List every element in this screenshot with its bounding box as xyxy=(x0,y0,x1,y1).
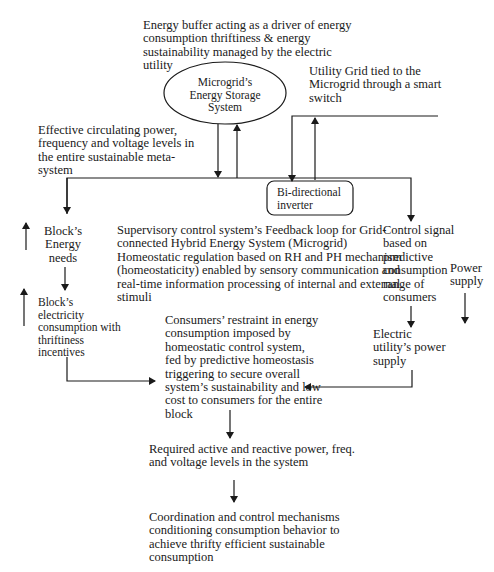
coordination-note: Coordination and control mechanisms cond… xyxy=(149,511,340,565)
homeostatic-microgrid-diagram: Energy buffer acting as a driver of ener… xyxy=(0,0,494,572)
electric-utility-supply: Electric utility’s power supply xyxy=(373,328,446,368)
power-supply-note: Power supply xyxy=(450,262,483,289)
storage-node-label: Microgrid’s Energy Storage System xyxy=(180,76,270,114)
utility-grid-line xyxy=(292,116,438,181)
control-signal-note: Control signal based on predictive consu… xyxy=(383,224,454,304)
block-consumption-note: Block’s electricity consumption with thr… xyxy=(38,296,121,359)
circulating-power-note: Effective circulating power, frequency a… xyxy=(38,124,194,178)
main-bus-line xyxy=(67,178,411,221)
inverter-label: Bi-directional inverter xyxy=(277,186,341,211)
required-levels-note: Required active and reactive power, freq… xyxy=(149,443,355,470)
utility-grid-note: Utility Grid tied to the Microgrid throu… xyxy=(309,65,441,105)
block-energy-needs: Block’s Energy needs xyxy=(38,225,88,265)
arrow-consumption-to-restraint xyxy=(67,357,155,381)
consumers-restraint-note: Consumers’ restraint in energy consumpti… xyxy=(165,314,322,421)
supervisory-note: Supervisory control system’s Feedback lo… xyxy=(117,224,402,304)
